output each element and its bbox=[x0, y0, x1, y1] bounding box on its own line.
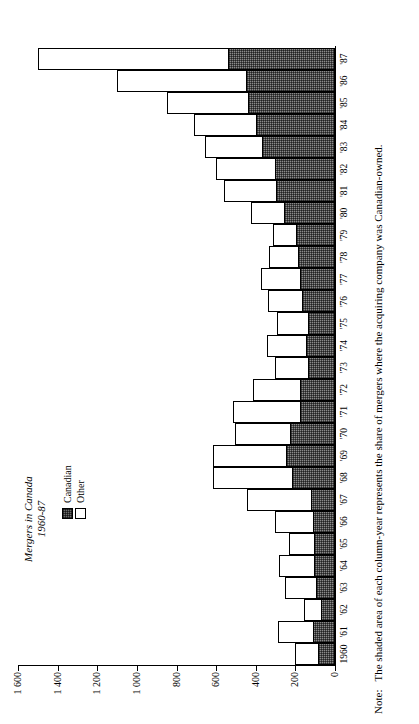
x-axis-tick-label: '78 bbox=[339, 252, 349, 263]
bar-column: '77 bbox=[18, 268, 335, 290]
x-axis-tick-label: '69 bbox=[339, 450, 349, 461]
y-axis-tick bbox=[177, 666, 178, 671]
x-axis-tick-label: '66 bbox=[339, 516, 349, 527]
bar-segment-canadian bbox=[300, 268, 335, 290]
bar-segment-canadian bbox=[318, 643, 335, 665]
x-axis-tick-label: '67 bbox=[339, 494, 349, 505]
bar-segment-other bbox=[304, 599, 321, 621]
bar-segment-other bbox=[295, 643, 318, 665]
bar-segment-canadian bbox=[256, 114, 335, 136]
bar-column: '78 bbox=[18, 246, 335, 268]
y-axis-tick-label: 400 bbox=[251, 672, 261, 687]
bar-segment-other bbox=[213, 467, 292, 489]
y-axis-tick-label: 0 bbox=[330, 672, 340, 677]
bar-segment-canadian bbox=[228, 48, 335, 70]
y-axis-tick bbox=[295, 666, 296, 671]
x-axis-tick-label: '64 bbox=[339, 560, 349, 571]
bar-segment-canadian bbox=[246, 70, 335, 92]
bar-segment-other bbox=[117, 70, 246, 92]
x-axis-tick-label: '65 bbox=[339, 538, 349, 549]
x-axis-tick-label: '70 bbox=[339, 428, 349, 439]
bar-segment-other bbox=[235, 423, 290, 445]
x-axis-tick-label: '87 bbox=[339, 54, 349, 65]
x-axis-tick-label: '81 bbox=[339, 186, 349, 197]
bar-segment-canadian bbox=[286, 445, 335, 467]
bar-column: 1960 bbox=[18, 643, 335, 665]
bar-column: '72 bbox=[18, 379, 335, 401]
bar-column: '70 bbox=[18, 423, 335, 445]
bar-segment-canadian bbox=[308, 313, 335, 335]
y-axis-tick-label: 600 bbox=[211, 672, 221, 687]
bar-segment-other bbox=[273, 224, 297, 246]
x-axis-tick-label: '79 bbox=[339, 230, 349, 241]
x-axis-tick-label: '85 bbox=[339, 98, 349, 109]
bar-column: '62 bbox=[18, 599, 335, 621]
bar-segment-other bbox=[251, 202, 285, 224]
bar-segment-canadian bbox=[308, 357, 335, 379]
bar-column: '66 bbox=[18, 511, 335, 533]
bar-column: '81 bbox=[18, 180, 335, 202]
x-axis-tick-label: '75 bbox=[339, 318, 349, 329]
bar-segment-other bbox=[167, 92, 248, 114]
chart-figure: Mergers in Canada 1960-87 Canadian Other… bbox=[0, 0, 419, 724]
y-axis-tick bbox=[216, 666, 217, 671]
bar-segment-canadian bbox=[290, 423, 335, 445]
bar-segment-other bbox=[261, 268, 301, 290]
bar-segment-other bbox=[289, 533, 314, 555]
x-axis-tick-label: '72 bbox=[339, 384, 349, 395]
bar-column: '79 bbox=[18, 224, 335, 246]
x-axis-tick-label: '68 bbox=[339, 472, 349, 483]
note-prefix: Note: bbox=[372, 690, 384, 714]
bar-column: '84 bbox=[18, 114, 335, 136]
figure-page: Mergers in Canada 1960-87 Canadian Other… bbox=[0, 0, 419, 724]
bar-column: '74 bbox=[18, 335, 335, 357]
bar-column: '71 bbox=[18, 401, 335, 423]
bar-segment-other bbox=[216, 158, 274, 180]
bar-segment-canadian bbox=[300, 401, 335, 423]
x-axis-tick-label: '76 bbox=[339, 296, 349, 307]
bar-segment-other bbox=[205, 136, 261, 158]
bar-segment-canadian bbox=[313, 621, 335, 643]
bar-segment-canadian bbox=[300, 379, 335, 401]
bar-segment-canadian bbox=[248, 92, 335, 114]
bar-series-container: 1960'61'62'63'64'65'66'67'68'69'70'71'72… bbox=[18, 48, 335, 665]
bar-segment-other bbox=[268, 290, 303, 312]
bar-segment-other bbox=[233, 401, 300, 423]
bar-column: '67 bbox=[18, 489, 335, 511]
bar-column: '85 bbox=[18, 92, 335, 114]
bar-column: '83 bbox=[18, 136, 335, 158]
x-axis-tick-label: '62 bbox=[339, 604, 349, 615]
bar-segment-canadian bbox=[311, 489, 335, 511]
x-axis-tick-label: '73 bbox=[339, 362, 349, 373]
bar-segment-canadian bbox=[292, 467, 335, 489]
y-axis-tick bbox=[18, 666, 19, 671]
bar-segment-canadian bbox=[314, 555, 335, 577]
bar-segment-canadian bbox=[276, 180, 335, 202]
note-text: The shaded area of each column-year repr… bbox=[372, 144, 384, 681]
bar-segment-other bbox=[38, 48, 228, 70]
bar-segment-canadian bbox=[313, 511, 335, 533]
bar-column: '80 bbox=[18, 202, 335, 224]
x-axis-tick-label: '80 bbox=[339, 208, 349, 219]
x-axis-tick-label: '74 bbox=[339, 340, 349, 351]
bar-segment-canadian bbox=[321, 599, 335, 621]
y-axis-tick bbox=[335, 666, 336, 671]
bar-segment-other bbox=[279, 555, 315, 577]
bar-segment-canadian bbox=[262, 136, 335, 158]
bar-column: '63 bbox=[18, 577, 335, 599]
bar-segment-other bbox=[213, 445, 286, 467]
y-axis-tick-label: 1 000 bbox=[132, 672, 142, 695]
x-axis-tick-label: '63 bbox=[339, 582, 349, 593]
bar-segment-canadian bbox=[298, 246, 335, 268]
y-axis-tick-label: 1 600 bbox=[13, 672, 23, 695]
bar-segment-other bbox=[224, 180, 276, 202]
bar-segment-other bbox=[275, 357, 309, 379]
x-axis-tick-label: '84 bbox=[339, 120, 349, 131]
plot-area: 1 6001 4001 2001 0008006004002000 1960'6… bbox=[18, 46, 336, 666]
bar-segment-other bbox=[267, 335, 307, 357]
x-axis-tick-label: '61 bbox=[339, 626, 349, 637]
y-axis-tick bbox=[256, 666, 257, 671]
bar-segment-other bbox=[278, 621, 314, 643]
bar-segment-other bbox=[277, 313, 309, 335]
x-axis-line bbox=[335, 46, 336, 666]
